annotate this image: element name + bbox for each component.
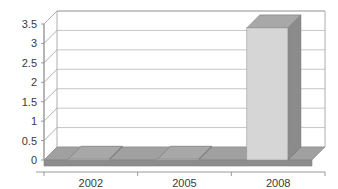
x-axis-tick-label: 2002 [79, 177, 103, 189]
x-axis-tick-labels: 200220052008 [79, 177, 291, 189]
y-axis-tick-labels: 00.511.522.533.5 [22, 18, 37, 166]
depth-connector [44, 69, 57, 82]
y-axis-tick-label: 1.5 [22, 96, 37, 108]
depth-connector [44, 11, 57, 24]
depth-connector [44, 89, 57, 102]
x-axis [36, 172, 325, 176]
y-axis-tick-label: 3 [31, 37, 37, 49]
depth-connector [44, 128, 57, 141]
depth-connector [44, 108, 57, 121]
y-axis-tick-label: 0 [31, 154, 37, 166]
depth-connector [44, 50, 57, 63]
y-axis [41, 24, 44, 160]
depth-connector [44, 30, 57, 43]
bar-chart-3d: 00.511.522.533.5 200220052008 [0, 0, 338, 189]
y-axis-tick-label: 3.5 [22, 18, 37, 30]
bar-front-face [68, 159, 109, 160]
bar-2008 [247, 15, 301, 160]
y-axis-tick-label: 0.5 [22, 135, 37, 147]
bar-side-face [288, 15, 301, 160]
bar-front-face [157, 159, 198, 160]
x-axis-tick-label: 2008 [266, 177, 290, 189]
chart-canvas: 00.511.522.533.5 200220052008 [0, 0, 338, 189]
y-axis-tick-label: 1 [31, 115, 37, 127]
y-axis-tick-label: 2 [31, 76, 37, 88]
floor-front-face [44, 160, 312, 166]
x-axis-tick-label: 2005 [172, 177, 196, 189]
bar-front-face [247, 28, 288, 160]
y-axis-tick-label: 2.5 [22, 57, 37, 69]
